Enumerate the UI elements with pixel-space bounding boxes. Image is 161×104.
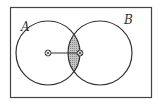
circled-times-icon bbox=[45, 50, 51, 56]
label-b: B bbox=[123, 13, 133, 27]
label-a: A bbox=[20, 20, 30, 34]
circled-times-icon bbox=[77, 50, 83, 56]
venn-diagram: A B bbox=[0, 0, 161, 104]
